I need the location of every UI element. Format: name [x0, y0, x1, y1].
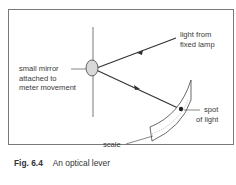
spot-of-light-icon — [179, 107, 183, 111]
incident-ray — [94, 38, 176, 69]
light-source-label: light from fixed lamp — [180, 30, 215, 49]
mirror-line-2: attached to — [19, 74, 76, 84]
arrow-head-icon — [134, 85, 140, 90]
figure-title: An optical lever — [53, 158, 110, 168]
mirror-line-3: meter movement — [19, 83, 76, 93]
spot-line-1: spot — [196, 105, 218, 115]
mirror-icon — [86, 60, 98, 76]
scale-leader-line — [126, 136, 153, 144]
mirror-label: small mirror attached to meter movement — [19, 64, 76, 93]
mirror-line-1: small mirror — [19, 64, 76, 74]
scale-shape — [150, 80, 191, 141]
figure-number: Fig. 6.4 — [14, 158, 43, 168]
scale-label: scale — [103, 140, 121, 150]
spot-line-2: of light — [196, 115, 218, 125]
light-source-line-1: light from — [180, 30, 215, 40]
spot-label: spot of light — [196, 105, 218, 124]
light-source-line-2: fixed lamp — [180, 40, 215, 50]
figure-caption: Fig. 6.4 An optical lever — [14, 158, 110, 168]
